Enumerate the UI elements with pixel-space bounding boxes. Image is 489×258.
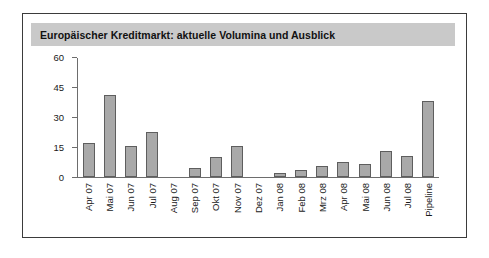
bar-slot: [397, 58, 418, 177]
x-axis-tick-label: Jan 08: [276, 183, 286, 212]
x-axis-tick-label: Apr 07: [84, 183, 94, 211]
bar-slot: [418, 58, 439, 177]
x-axis-tick-label: Apr 08: [339, 183, 349, 211]
x-label-slot: Feb 08: [291, 182, 312, 230]
x-axis-tick-label: Dez 07: [254, 183, 264, 213]
x-label-slot: Dez 07: [248, 182, 269, 230]
bar-mai-08: [359, 164, 371, 177]
x-label-slot: Pipeline: [419, 182, 440, 230]
x-axis-tick-label: Pipeline: [425, 183, 435, 217]
bar-slot: [142, 58, 163, 177]
x-label-slot: Aug 07: [163, 182, 184, 230]
x-label-slot: Mai 08: [355, 182, 376, 230]
x-axis-tick-label: Okt 07: [212, 183, 222, 211]
bar-jun-08: [380, 151, 392, 177]
bar-slot: [333, 58, 354, 177]
bar-series: [78, 58, 439, 177]
x-axis-tick-label: Mai 07: [105, 183, 115, 212]
bar-mrz-08: [316, 166, 328, 177]
bar-slot: [354, 58, 375, 177]
bar-jan-08: [274, 173, 286, 177]
x-label-slot: Mai 07: [99, 182, 120, 230]
plot-area: 015304560 Apr 07Mai 07Jun 07Jul 07Aug 07…: [31, 52, 455, 230]
y-axis-tick-label: 60: [53, 52, 64, 63]
chart-axes: 015304560: [77, 58, 439, 178]
x-axis-tick-label: Mrz 08: [318, 183, 328, 212]
bar-jul-07: [146, 132, 158, 177]
bar-apr-07: [83, 143, 95, 177]
bar-jun-07: [125, 146, 137, 177]
x-axis-tick-label: Nov 07: [233, 183, 243, 213]
x-label-slot: Jan 08: [270, 182, 291, 230]
x-label-slot: Jun 07: [121, 182, 142, 230]
bar-slot: [290, 58, 311, 177]
x-axis-tick-label: Jul 08: [403, 183, 413, 208]
x-label-slot: Okt 07: [206, 182, 227, 230]
bar-slot: [205, 58, 226, 177]
x-axis-tick-label: Sep 07: [190, 183, 200, 213]
x-axis-tick-label: Jun 08: [382, 183, 392, 212]
bar-slot: [184, 58, 205, 177]
bar-slot: [163, 58, 184, 177]
bar-pipeline: [422, 101, 434, 177]
bar-slot: [312, 58, 333, 177]
y-axis-tick: 30: [72, 117, 77, 118]
x-axis-tick-label: Feb 08: [297, 183, 307, 213]
bar-apr-08: [337, 162, 349, 177]
bar-slot: [99, 58, 120, 177]
x-axis-tick-label: Mai 08: [361, 183, 371, 212]
x-axis-line: [77, 177, 439, 178]
bar-slot: [227, 58, 248, 177]
x-label-slot: Jun 08: [376, 182, 397, 230]
y-axis-tick: 45: [72, 87, 77, 88]
y-axis-tick-label: 0: [59, 172, 64, 183]
bar-slot: [248, 58, 269, 177]
bar-okt-07: [210, 157, 222, 177]
bar-feb-08: [295, 170, 307, 177]
x-axis-tick-label: Jun 07: [126, 183, 136, 212]
x-label-slot: Apr 08: [334, 182, 355, 230]
x-label-slot: Jul 07: [142, 182, 163, 230]
x-axis-tick-label: Aug 07: [169, 183, 179, 213]
x-axis-tick-label: Jul 07: [148, 183, 158, 208]
bar-slot: [269, 58, 290, 177]
chart-title: Europäischer Kreditmarkt: aktuelle Volum…: [31, 29, 335, 41]
x-label-slot: Mrz 08: [312, 182, 333, 230]
bar-nov-07: [231, 146, 243, 177]
x-label-slot: Apr 07: [78, 182, 99, 230]
x-label-slot: Jul 08: [397, 182, 418, 230]
y-axis-tick: 15: [72, 147, 77, 148]
y-axis-tick-label: 30: [53, 112, 64, 123]
x-axis-labels: Apr 07Mai 07Jun 07Jul 07Aug 07Sep 07Okt …: [78, 182, 440, 230]
y-axis-tick: 0: [72, 177, 77, 178]
y-axis-tick-label: 45: [53, 82, 64, 93]
bar-sep-07: [189, 168, 201, 177]
bar-mai-07: [104, 95, 116, 177]
bar-jul-08: [401, 156, 413, 177]
bar-slot: [375, 58, 396, 177]
y-axis-tick: 60: [72, 57, 77, 58]
bar-slot: [120, 58, 141, 177]
x-label-slot: Sep 07: [184, 182, 205, 230]
x-label-slot: Nov 07: [227, 182, 248, 230]
bar-slot: [78, 58, 99, 177]
chart-figure: Europäischer Kreditmarkt: aktuelle Volum…: [22, 13, 467, 238]
y-axis-tick-label: 15: [53, 142, 64, 153]
chart-title-bar: Europäischer Kreditmarkt: aktuelle Volum…: [31, 23, 455, 46]
